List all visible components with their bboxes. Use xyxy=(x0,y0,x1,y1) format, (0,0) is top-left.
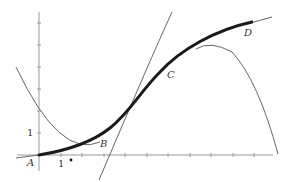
right-parabola-curve xyxy=(196,45,278,154)
point-label-b: B xyxy=(99,138,107,149)
function-graph: A B C D 1 1 xyxy=(0,0,288,182)
point-label-d: D xyxy=(243,27,252,38)
x-tick-label: 1 xyxy=(58,158,64,169)
point-label-a: A xyxy=(26,157,34,168)
main-bold-curve xyxy=(39,22,252,155)
point-label-c: C xyxy=(167,69,175,80)
marker-dot xyxy=(70,159,73,162)
extension-line xyxy=(254,17,272,22)
y-tick-label: 1 xyxy=(27,127,33,138)
